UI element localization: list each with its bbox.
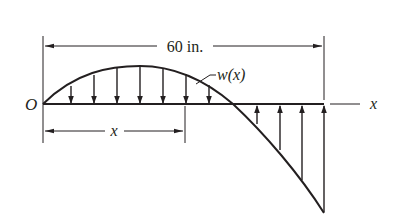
beam-load-diagram: 60 in. x w(x) O x [0,0,399,224]
axis-label: x [369,95,377,112]
span-dimension: 60 in. [45,38,322,55]
downward-load-arrows [71,66,209,103]
position-dimension: x [45,122,183,139]
load-leader-line [196,75,216,84]
origin-label: O [25,95,37,114]
span-label: 60 in. [167,38,203,55]
position-label: x [109,122,117,139]
load-label: w(x) [217,66,245,84]
load-curve [43,66,324,213]
